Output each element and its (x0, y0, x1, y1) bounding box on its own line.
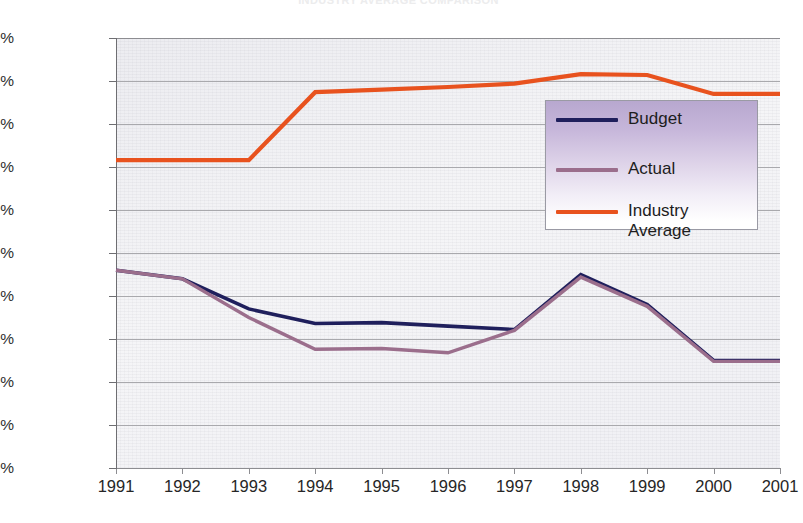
x-axis-tick-label: 2000 (679, 477, 749, 496)
y-axis-tick-label: 0.0400% (0, 116, 14, 131)
y-axis-tick-label: 0.0450% (0, 73, 14, 88)
y-axis-tick-label: 0.0300% (0, 202, 14, 217)
x-axis-tick-mark (382, 469, 383, 474)
legend-swatch-icon (556, 210, 618, 214)
series-line-actual (116, 270, 780, 361)
x-axis-tick-mark (647, 469, 648, 474)
chart-title: INDUSTRY AVERAGE COMPARISON (0, 0, 797, 4)
legend-label: Actual (628, 159, 675, 179)
x-axis-tick-label: 2001 (745, 477, 803, 496)
legend-label: Budget (628, 109, 682, 129)
x-axis-tick-mark (581, 469, 582, 474)
x-axis-tick-label: 1998 (546, 477, 616, 496)
y-axis-tick-label: 0.0350% (0, 159, 14, 174)
x-axis-tick-label: 1994 (280, 477, 350, 496)
y-axis-tick-label: 0.0150% (0, 331, 14, 346)
legend-item: Actual (556, 159, 752, 179)
y-axis-tick-label: 0.0000% (0, 460, 14, 475)
x-axis-tick-mark (780, 469, 781, 474)
x-axis-tick-label: 1993 (214, 477, 284, 496)
y-axis-tick-label: 0.0500% (0, 30, 14, 45)
legend-label: Industry Average (628, 201, 691, 241)
x-axis-tick-mark (714, 469, 715, 474)
x-axis-tick-mark (514, 469, 515, 474)
x-axis-tick-mark (249, 469, 250, 474)
legend-swatch-icon (556, 118, 618, 122)
y-axis-tick-label: 0.0200% (0, 288, 14, 303)
y-axis-tick-label: 0.0250% (0, 245, 14, 260)
x-axis-tick-mark (448, 469, 449, 474)
x-axis-tick-label: 1996 (413, 477, 483, 496)
legend-item: Budget (556, 109, 752, 129)
chart-legend: BudgetActualIndustry Average (545, 100, 758, 230)
legend-item: Industry Average (556, 201, 752, 241)
x-axis-tick-mark (182, 469, 183, 474)
x-axis-tick-label: 1992 (147, 477, 217, 496)
x-axis-tick-label: 1995 (347, 477, 417, 496)
x-axis-tick-label: 1991 (81, 477, 151, 496)
x-axis-tick-mark (116, 469, 117, 474)
x-axis-tick-label: 1997 (479, 477, 549, 496)
x-axis-tick-mark (315, 469, 316, 474)
x-axis-tick-label: 1999 (612, 477, 682, 496)
legend-swatch-icon (556, 168, 618, 172)
y-axis-tick-label: 0.0100% (0, 374, 14, 389)
y-axis-tick-label: 0.0050% (0, 417, 14, 432)
series-line-budget (116, 270, 780, 360)
